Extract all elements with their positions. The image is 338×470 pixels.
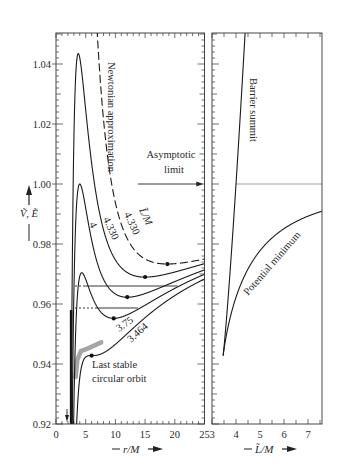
x-axis-title-left: r/M: [112, 443, 163, 455]
newtonian-approximation-label: Newtonian approximation: [106, 62, 117, 173]
potential-curve: [68, 273, 208, 470]
x-tick-label: 6: [281, 429, 286, 440]
x-tick-label: 20: [170, 429, 181, 440]
horizon-arrow-icon: [65, 415, 69, 422]
curve-label-4330: 4.330: [101, 215, 121, 241]
y-tick-label: 0.96: [33, 299, 51, 310]
y-tick-label: 0.92: [33, 419, 51, 430]
left-panel: 0.920.940.960.981.001.021.040510152025: [33, 0, 219, 470]
x-tick-label: 25: [199, 429, 210, 440]
x-tick-label: 7: [305, 429, 310, 440]
last-stable-orbit-label-line1: Last stable: [92, 359, 138, 370]
x-axis-right-arrow-icon: [287, 446, 297, 452]
figure: 0.920.940.960.981.001.021.040510152025 3…: [0, 0, 338, 470]
barrier-summit-label: Barrier summit: [248, 78, 259, 142]
circular-orbit-dot: [143, 275, 147, 279]
right-plot-frame: [212, 33, 322, 424]
x-tick-label: 15: [140, 429, 151, 440]
y-axis-arrow-up-icon: [26, 185, 32, 195]
right-tick-labels: 34567: [209, 429, 310, 440]
left-plot-area: [63, 0, 208, 470]
circular-orbit-dot: [165, 262, 169, 266]
asymptotic-limit-label-line1: Asymptotic: [147, 149, 196, 160]
circular-orbit-dot: [112, 316, 116, 320]
right-plot-area: [223, 0, 325, 356]
potential-minimum-label: Potential minimum: [241, 229, 302, 297]
x-axis-left-arrow-icon: [153, 446, 163, 452]
curve-label-4: 4: [87, 220, 100, 230]
y-tick-label: 1.00: [33, 179, 51, 190]
circular-orbit-dot: [125, 295, 129, 299]
last-stable-orbit-label-line2: circular orbit: [92, 373, 147, 384]
y-tick-label: 1.04: [33, 59, 52, 70]
barrier-summit-curve: [223, 0, 325, 356]
potential-minimum-curve: [223, 210, 325, 355]
x-tick-label: 5: [257, 429, 262, 440]
asymptotic-limit-label-line2: limit: [164, 164, 184, 175]
y-tick-label: 0.98: [33, 239, 51, 250]
x-tick-label: 4: [233, 429, 239, 440]
y-axis-title: Ṽ, Ẽ: [20, 185, 39, 241]
x-axis-right-title-text: L̃/M: [254, 443, 274, 455]
right-axis-ticks: [212, 33, 320, 424]
asymptotic-limit-arrow-icon: [196, 182, 203, 187]
circular-orbit-dot: [90, 354, 94, 358]
x-axis-title-right: L̃/M: [244, 443, 297, 455]
y-tick-label: 1.02: [33, 119, 51, 130]
x-tick-label: 3: [209, 429, 214, 440]
right-panel: 34567: [209, 0, 324, 440]
y-axis-title-text: Ṽ, Ẽ: [20, 208, 39, 219]
x-tick-label: 10: [110, 429, 121, 440]
y-tick-label: 0.94: [33, 359, 52, 370]
x-tick-label: 0: [53, 429, 58, 440]
x-tick-label: 5: [83, 429, 88, 440]
x-axis-left-title-text: r/M: [123, 443, 140, 455]
